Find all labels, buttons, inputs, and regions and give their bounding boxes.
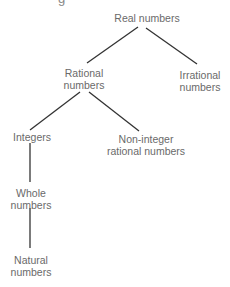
node-label-line2: numbers <box>11 266 52 278</box>
edge-real-irrational <box>146 28 197 64</box>
node-non-integer-rational-numbers: Non-integer rational numbers <box>107 133 185 157</box>
node-label-line1: Rational <box>64 67 105 79</box>
node-label-line1: Whole <box>11 187 52 199</box>
node-label-line2: numbers <box>64 79 105 91</box>
edge-rational-noninteger <box>89 92 139 131</box>
edge-real-rational <box>87 27 138 63</box>
node-label: Integers <box>13 131 51 143</box>
node-rational-numbers: Rational numbers <box>64 67 105 91</box>
edge-rational-integers <box>30 92 80 130</box>
node-real-numbers: Real numbers <box>114 12 179 24</box>
node-label-line2: numbers <box>11 199 52 211</box>
node-integers: Integers <box>13 131 51 143</box>
node-label-line1: Irrational <box>180 69 221 81</box>
node-label-line2: rational numbers <box>107 145 185 157</box>
number-classification-diagram: g Real numbers Rational numbers Irration… <box>0 0 230 287</box>
node-whole-numbers: Whole numbers <box>11 187 52 211</box>
node-label: Real numbers <box>114 12 179 24</box>
node-natural-numbers: Natural numbers <box>11 254 52 278</box>
node-label-line1: Natural <box>11 254 52 266</box>
node-label-line1: Non-integer <box>107 133 185 145</box>
node-irrational-numbers: Irrational numbers <box>180 69 221 93</box>
node-label-line2: numbers <box>180 81 221 93</box>
